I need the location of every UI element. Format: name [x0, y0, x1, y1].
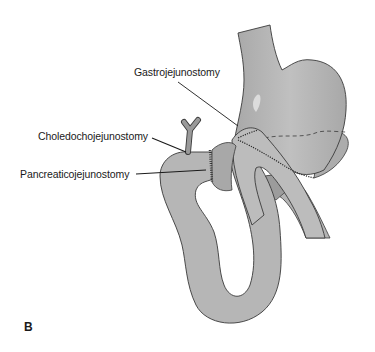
- panel-letter: B: [24, 320, 33, 334]
- choledochojejunostomy-leader: [152, 138, 186, 152]
- gastrojejunostomy-leader: [178, 82, 238, 126]
- label-pancreaticojejunostomy: Pancreaticojejunostomy: [20, 168, 129, 180]
- label-choledochojejunostomy: Choledochojejunostomy: [38, 130, 148, 142]
- label-gastrojejunostomy: Gastrojejunostomy: [134, 66, 220, 78]
- common-bile-duct: [184, 120, 198, 152]
